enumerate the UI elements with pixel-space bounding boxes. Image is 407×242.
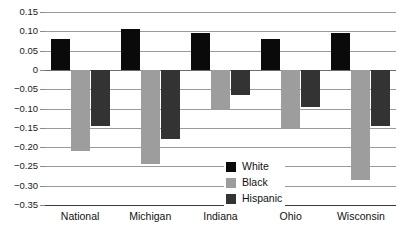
y-axis-tick-label: −0.25 xyxy=(0,161,38,171)
y-axis-tick-label: 0 xyxy=(0,65,38,75)
y-axis-tick-label: −0.10 xyxy=(0,104,38,114)
bar-michigan-hispanic xyxy=(161,70,180,139)
y-axis: 0.150.100.050−0.05−0.10−0.15−0.20−0.25−0… xyxy=(0,0,45,242)
legend-swatch-black-icon xyxy=(226,178,236,188)
x-axis-label-national: National xyxy=(45,210,115,223)
y-axis-tick-label: 0.15 xyxy=(0,7,38,17)
x-axis-label-indiana: Indiana xyxy=(185,210,255,223)
bar-chart: 0.150.100.050−0.05−0.10−0.15−0.20−0.25−0… xyxy=(0,0,407,242)
x-axis-labels: NationalMichiganIndianaOhioWisconsin xyxy=(45,210,396,230)
y-axis-tick-label: −0.05 xyxy=(0,84,38,94)
legend-swatch-hispanic-icon xyxy=(226,194,236,204)
bar-wisconsin-white xyxy=(331,33,350,70)
bar-michigan-white xyxy=(121,29,140,70)
bar-indiana-white xyxy=(191,33,210,70)
bar-wisconsin-black xyxy=(351,70,370,180)
plot-area xyxy=(45,12,396,205)
x-axis-label-ohio: Ohio xyxy=(256,210,326,223)
gridline xyxy=(45,128,396,129)
legend-label: Hispanic xyxy=(242,193,282,204)
bar-wisconsin-hispanic xyxy=(371,70,390,126)
bar-indiana-black xyxy=(211,70,230,111)
bar-ohio-white xyxy=(261,39,280,70)
bar-national-white xyxy=(51,39,70,70)
gridline xyxy=(45,186,396,187)
gridline xyxy=(45,166,396,167)
y-axis-tick-label: 0.05 xyxy=(0,46,38,56)
bar-ohio-black xyxy=(281,70,300,128)
y-axis-tick-label: −0.20 xyxy=(0,142,38,152)
y-axis-tick-label: 0.10 xyxy=(0,26,38,36)
legend-item-black: Black xyxy=(226,176,282,189)
gridline xyxy=(45,205,396,206)
x-axis-label-michigan: Michigan xyxy=(115,210,185,223)
bar-indiana-hispanic xyxy=(231,70,250,95)
legend-label: White xyxy=(242,161,269,172)
chart-legend: WhiteBlackHispanic xyxy=(224,158,285,207)
gridline xyxy=(45,147,396,148)
y-axis-tick-label: −0.15 xyxy=(0,123,38,133)
bar-national-hispanic xyxy=(91,70,110,126)
gridline xyxy=(45,12,396,13)
legend-label: Black xyxy=(242,177,268,188)
legend-item-hispanic: Hispanic xyxy=(226,192,282,205)
x-axis-label-wisconsin: Wisconsin xyxy=(326,210,396,223)
y-axis-tick-label: −0.35 xyxy=(0,200,38,210)
legend-item-white: White xyxy=(226,160,282,173)
gridline xyxy=(45,31,396,32)
bar-ohio-hispanic xyxy=(301,70,320,107)
legend-swatch-white-icon xyxy=(226,162,236,172)
bar-national-black xyxy=(71,70,90,151)
y-axis-tick-label: −0.30 xyxy=(0,181,38,191)
bar-michigan-black xyxy=(141,70,160,165)
